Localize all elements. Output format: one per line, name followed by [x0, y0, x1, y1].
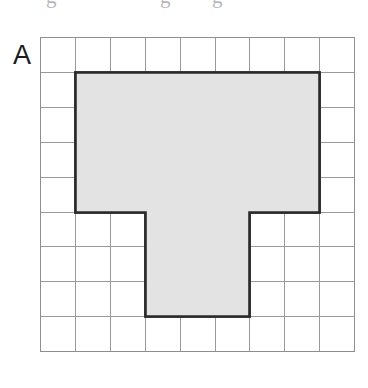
cropped-glyph-1: g — [46, 0, 57, 9]
grid-with-shape — [40, 37, 355, 352]
cropped-glyph-3: g — [212, 0, 223, 9]
grid-svg — [40, 37, 356, 353]
cropped-glyph-2: g — [160, 0, 171, 9]
cropped-text-strip: g g g — [0, 0, 368, 14]
figure-label-a: A — [13, 42, 31, 69]
figure-canvas: g g g A — [0, 0, 368, 388]
